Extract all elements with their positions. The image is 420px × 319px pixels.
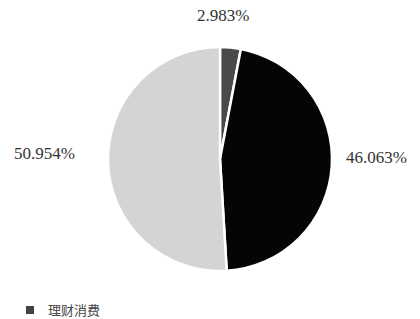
- legend-swatch: [26, 306, 34, 314]
- pie-slice-2: [108, 47, 227, 271]
- slice-label-small: 2.983%: [197, 6, 249, 26]
- pie-slice-1: [220, 49, 332, 271]
- slice-label-dark: 46.063%: [346, 148, 407, 168]
- legend-label: 理财消费: [48, 300, 100, 319]
- legend: 理财消费: [26, 300, 100, 319]
- slice-label-light: 50.954%: [14, 144, 75, 164]
